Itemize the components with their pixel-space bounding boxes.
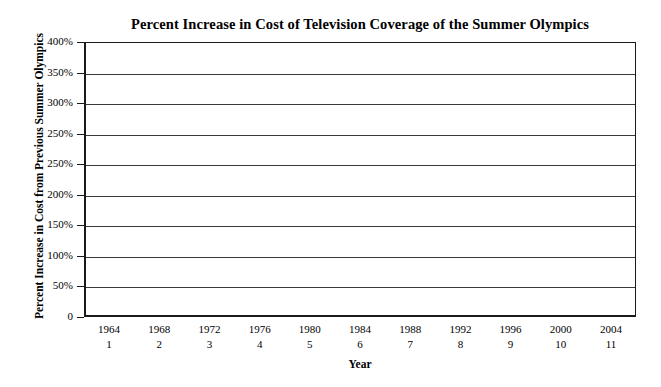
y-axis-tick-label-wrap: 250%: [28, 128, 73, 139]
data-series-layer: [86, 43, 635, 315]
x-axis-year-label: 1980: [285, 322, 335, 337]
chart-figure: Percent Increase in Cost of Television C…: [0, 0, 661, 387]
x-axis-index-label: 7: [385, 337, 435, 352]
x-axis-label-group: 19805: [285, 322, 335, 362]
x-axis-index-label: 11: [586, 337, 636, 352]
y-axis-tick-label-wrap: 200%: [28, 189, 73, 200]
x-axis-year-label: 1996: [486, 322, 536, 337]
x-axis-year-label: 1964: [84, 322, 134, 337]
y-axis-tick: [77, 225, 84, 226]
x-axis-index-label: 6: [335, 337, 385, 352]
plot-area: [84, 42, 636, 317]
x-axis-year-label: 1988: [385, 322, 435, 337]
y-axis-tick: [77, 164, 84, 165]
x-axis-index-label: 3: [184, 337, 234, 352]
y-axis-tick-label: 250%: [33, 158, 73, 169]
y-axis-tick-label: 250%: [33, 128, 73, 139]
y-axis-tick-label-wrap: 0: [28, 311, 73, 322]
y-axis-tick-label-wrap: 150%: [28, 219, 73, 230]
y-axis-tick: [77, 103, 84, 104]
y-axis-tick-label: 100%: [33, 250, 73, 261]
x-axis-label-group: 19969: [486, 322, 536, 362]
x-axis-label-group: 200010: [536, 322, 586, 362]
y-axis-tick-label: 150%: [33, 219, 73, 230]
y-axis-tick: [77, 286, 84, 287]
x-axis-labels: 1964119682197231976419805198461988719928…: [84, 322, 636, 362]
x-axis-index-label: 10: [536, 337, 586, 352]
y-axis-tick-label: 0: [33, 311, 73, 322]
x-axis-label-group: 19764: [235, 322, 285, 362]
x-axis-year-label: 1972: [184, 322, 234, 337]
x-axis-label-group: 19846: [335, 322, 385, 362]
y-axis-tick-label-wrap: 100%: [28, 250, 73, 261]
x-axis-label-group: 19887: [385, 322, 435, 362]
y-axis-tick-label-wrap: 300%: [28, 97, 73, 108]
y-axis-tick-label-wrap: 250%: [28, 158, 73, 169]
x-axis-year-label: 2004: [586, 322, 636, 337]
y-axis-tick: [77, 195, 84, 196]
x-axis-title: Year: [84, 358, 636, 370]
y-axis-tick-label-wrap: 50%: [28, 280, 73, 291]
y-axis-tick: [77, 42, 84, 43]
x-axis-year-label: 2000: [536, 322, 586, 337]
y-axis-tick: [77, 73, 84, 74]
x-axis-index-label: 4: [235, 337, 285, 352]
y-axis-tick-label: 300%: [33, 97, 73, 108]
x-axis-year-label: 1976: [235, 322, 285, 337]
x-axis-year-label: 1992: [435, 322, 485, 337]
x-axis-year-label: 1968: [134, 322, 184, 337]
x-axis-label-group: 200411: [586, 322, 636, 362]
x-axis-label-group: 19641: [84, 322, 134, 362]
y-axis-tick-label: 50%: [33, 280, 73, 291]
x-axis-index-label: 1: [84, 337, 134, 352]
chart-title: Percent Increase in Cost of Television C…: [84, 16, 636, 33]
y-axis-tick: [77, 256, 84, 257]
x-axis-label-group: 19723: [184, 322, 234, 362]
x-axis-label-group: 19928: [435, 322, 485, 362]
y-axis-tick: [77, 134, 84, 135]
y-axis-tick-label-wrap: 400%: [28, 36, 73, 47]
x-axis-index-label: 9: [486, 337, 536, 352]
y-axis-tick-label: 200%: [33, 189, 73, 200]
x-axis-label-group: 19682: [134, 322, 184, 362]
y-axis-tick-label: 350%: [33, 67, 73, 78]
x-axis-year-label: 1984: [335, 322, 385, 337]
x-axis-index-label: 5: [285, 337, 335, 352]
y-axis-tick-label-wrap: 350%: [28, 67, 73, 78]
x-axis-index-label: 2: [134, 337, 184, 352]
y-axis-tick: [77, 317, 84, 318]
y-axis-tick-label: 400%: [33, 36, 73, 47]
x-axis-index-label: 8: [435, 337, 485, 352]
